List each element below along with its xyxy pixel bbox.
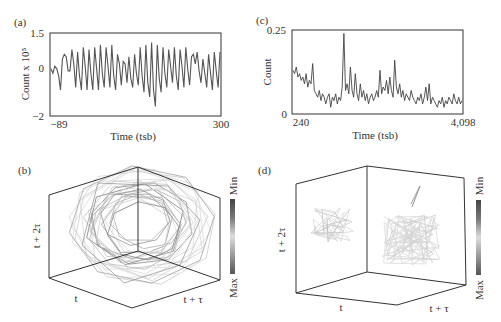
ytick-a-bottom: −2 (32, 110, 44, 122)
trajectory-b (69, 166, 215, 284)
xtick-c-left: 240 (293, 116, 310, 128)
panel-d: (d) t + 2τ t t + τ Min Max (258, 164, 485, 314)
ylabel-a: Count x 10⁵ (19, 47, 31, 100)
box-frame-b (49, 167, 220, 308)
axis-label-d-x: t (339, 301, 342, 313)
axis-label-b-x: t (74, 292, 77, 304)
axis-label-d-z: t + 2τ (275, 227, 287, 252)
panel-c: (c) 0.25 0 240 4,098 Time (tsb) Count (256, 14, 476, 142)
colorbar-b (230, 199, 235, 274)
plot-frame-c (292, 30, 463, 114)
colorbar-b-min-label: Min (227, 176, 239, 195)
panel-label-b: (b) (18, 164, 31, 177)
ytick-a-top: 1.5 (30, 27, 44, 39)
axis-label-b-y: t + τ (183, 293, 203, 305)
panel-label-d: (d) (258, 164, 271, 177)
line-series-a (51, 43, 220, 107)
axis-label-d-y: t + τ (429, 302, 449, 314)
colorbar-b-max-label: Max (227, 277, 239, 298)
xlabel-c: Time (tsb) (352, 129, 398, 142)
panel-a: (a) 1.5 0 −2 −89 300 Time (tsb) Count x … (14, 16, 230, 143)
panel-label-a: (a) (14, 16, 27, 29)
line-series-c (293, 33, 462, 107)
panel-b: (b) t + 2τ t t + τ Min Max (18, 164, 239, 308)
xtick-a-left: −89 (50, 118, 68, 130)
xtick-a-right: 300 (213, 118, 230, 130)
ytick-c-top: 0.25 (267, 24, 287, 36)
plot-frame-a (50, 33, 221, 116)
figure: (a) 1.5 0 −2 −89 300 Time (tsb) Count x … (0, 0, 501, 322)
xtick-c-right: 4,098 (451, 116, 476, 128)
ytick-c-bottom: 0 (282, 108, 288, 120)
ytick-a-zero: 0 (39, 62, 45, 74)
xlabel-a: Time (tsb) (110, 130, 156, 143)
trajectory-d (311, 186, 440, 265)
axis-label-b-z: t + 2τ (30, 223, 42, 248)
ylabel-c: Count (261, 59, 273, 86)
box-frame-d (296, 166, 466, 305)
colorbar-d-min-label: Min (473, 176, 485, 195)
colorbar-d-max-label: Max (473, 279, 485, 300)
colorbar-d (476, 200, 481, 275)
